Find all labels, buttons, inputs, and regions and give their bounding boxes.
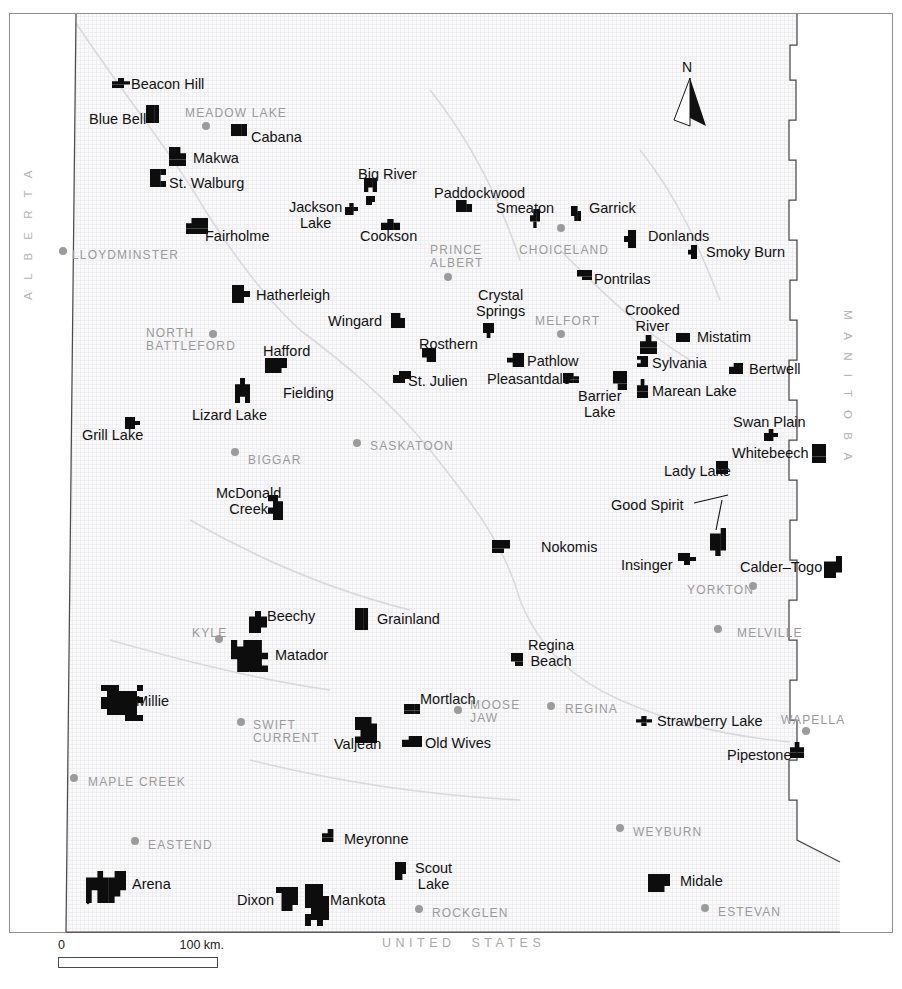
scale-bar-box <box>58 957 218 968</box>
city-dot-saskatoon <box>353 439 361 447</box>
north-arrow-label: N <box>682 59 692 75</box>
city-dot-swift-current <box>237 718 245 726</box>
reserve-lady-lake <box>716 461 728 474</box>
scale-bar: 0 100 km. <box>58 938 218 968</box>
reserve-mistatim <box>676 333 690 342</box>
city-dot-north-battleford <box>209 330 217 338</box>
scale-bar-max-label: 100 km. <box>180 938 224 952</box>
province-label-alberta: A L B E R T A <box>22 166 34 300</box>
city-dot-moose-jaw <box>454 706 462 714</box>
reserve-calder-togo <box>824 556 842 578</box>
city-dot-prince-albert <box>444 273 452 281</box>
city-dot-lloydminster <box>59 247 67 255</box>
city-dot-kyle <box>215 635 223 643</box>
city-dot-weyburn <box>616 824 624 832</box>
north-arrow: N <box>668 62 714 134</box>
reserve-cabana <box>231 124 247 136</box>
reserve-blue-bell <box>146 105 159 123</box>
reserve-mortlach <box>404 704 420 714</box>
city-dot-estevan <box>701 904 709 912</box>
city-dot-wapella <box>802 727 810 735</box>
city-dot-melville <box>714 625 722 633</box>
province-label-manitoba: M A N I T O B A <box>842 310 854 465</box>
city-dot-regina <box>547 702 555 710</box>
city-dot-choiceland <box>557 224 565 232</box>
city-dot-melfort <box>557 330 565 338</box>
city-dot-yorkton <box>749 582 757 590</box>
city-dot-meadow-lake <box>202 122 210 130</box>
country-label-united-states: UNITED STATES <box>382 936 545 950</box>
city-dot-biggar <box>231 448 239 456</box>
reserve-whitebeech <box>812 444 826 463</box>
city-dot-eastend <box>131 837 139 845</box>
scale-bar-min-label: 0 <box>58 938 65 952</box>
city-dot-maple-creek <box>70 774 78 782</box>
city-dot-rockglen <box>415 905 423 913</box>
map-canvas: MEADOW LAKELLOYDMINSTERPRINCE ALBERTCHOI… <box>0 0 902 989</box>
reserve-grainland <box>355 608 368 630</box>
